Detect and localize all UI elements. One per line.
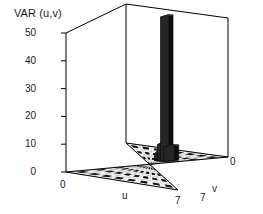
floor-mesh [66,143,228,190]
z-tick-label-0: 0 [14,167,36,177]
x-axis-label-u: u [122,191,128,201]
axis-box [66,4,228,190]
z-tick-label-10: 10 [14,139,36,149]
z-tick-label-50: 50 [14,28,36,38]
bar-series [154,14,178,162]
chart-title: VAR (u,v) [14,8,62,19]
z-tick-label-20: 20 [14,111,36,121]
x-max-label: 7 [175,196,181,206]
var-3d-bar-chart: VAR (u,v) 50 40 30 20 10 0 0 u 7 7 v 0 [0,0,263,214]
z-axis-ticks [61,33,66,172]
y-max-label: 7 [200,193,206,203]
bar-3d [161,14,173,161]
x-origin-label: 0 [60,180,66,190]
bar-3d [164,144,179,162]
z-tick-label-30: 30 [14,84,36,94]
plot-area [0,0,263,214]
y-origin-label: 0 [230,157,236,167]
y-axis-label-v: v [212,184,217,194]
z-tick-label-40: 40 [14,56,36,66]
